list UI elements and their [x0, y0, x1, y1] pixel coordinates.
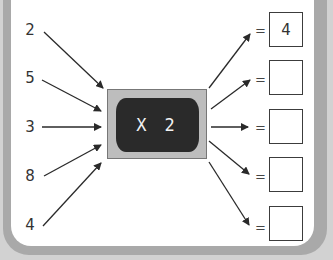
answer-box-2[interactable] [269, 60, 303, 95]
answer-box-5[interactable] [269, 206, 303, 241]
operation-label: X 2 [136, 115, 179, 135]
input-number: 8 [23, 169, 37, 184]
equals-sign: = [255, 73, 266, 86]
function-machine-monitor-icon: X 2 [107, 89, 207, 159]
equals-sign: = [255, 121, 266, 134]
output-arrow-5 [209, 162, 249, 225]
input-number: 4 [23, 218, 37, 233]
input-number: 2 [23, 23, 37, 38]
output-arrow-1 [209, 34, 250, 88]
monitor-screen: X 2 [116, 98, 199, 152]
equals-sign: = [255, 170, 266, 183]
answer-box-3[interactable] [269, 109, 303, 144]
input-arrow-2 [42, 80, 101, 111]
output-arrow-4 [209, 141, 249, 174]
output-arrow-2 [211, 80, 250, 109]
equals-sign: = [255, 221, 266, 234]
input-arrow-1 [44, 32, 103, 88]
answer-box-4[interactable] [269, 157, 303, 192]
input-number: 3 [23, 120, 37, 135]
input-number: 5 [23, 71, 37, 86]
equals-sign: = [255, 24, 266, 37]
answer-box-1[interactable]: 4 [269, 12, 303, 47]
